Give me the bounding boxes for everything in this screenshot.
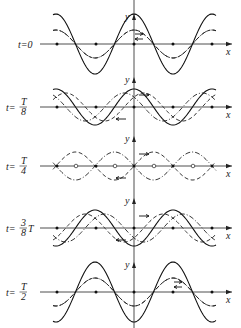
- point-marker: [95, 43, 98, 46]
- node-marker: [152, 164, 156, 168]
- time-label: t=T8: [6, 96, 28, 117]
- svg-text:8: 8: [21, 227, 26, 238]
- point-marker: [95, 165, 98, 168]
- standing-wave-diagram: xyt=0xyt=T8xyt=T4xyt=38Txyt=T2: [0, 0, 241, 328]
- y-axis-label: y: [124, 259, 130, 270]
- right-arrow-icon: [135, 33, 143, 36]
- point-marker: [95, 227, 98, 230]
- time-label: t=0: [18, 39, 33, 50]
- point-marker: [211, 291, 214, 294]
- point-marker: [172, 106, 175, 109]
- svg-text:t=0: t=0: [18, 39, 33, 50]
- point-marker: [133, 43, 136, 46]
- point-marker: [56, 106, 59, 109]
- x-axis-label: x: [225, 168, 231, 179]
- svg-text:t=: t=: [6, 161, 16, 172]
- right-arrow-icon: [139, 153, 149, 156]
- x-axis-label: x: [225, 230, 231, 241]
- panel-t38: xyt=38T: [6, 195, 232, 246]
- point-marker: [172, 227, 175, 230]
- svg-text:t=: t=: [6, 287, 16, 298]
- right-arrow-icon: [174, 281, 182, 284]
- point-marker: [56, 291, 59, 294]
- time-label: t=T2: [6, 281, 28, 302]
- point-marker: [211, 106, 214, 109]
- point-marker: [133, 227, 136, 230]
- left-arrow-icon: [135, 38, 143, 41]
- panel-t0: xyt=0: [18, 11, 232, 74]
- node-marker: [191, 164, 195, 168]
- svg-text:t=: t=: [6, 223, 16, 234]
- point-marker: [211, 43, 214, 46]
- point-marker: [133, 106, 136, 109]
- point-marker: [56, 227, 59, 230]
- left-arrow-icon: [116, 118, 126, 121]
- y-axis-label: y: [124, 195, 130, 206]
- time-label: t=38T: [6, 217, 35, 238]
- y-axis-label: y: [124, 133, 130, 144]
- y-axis-arrow-icon: [132, 77, 136, 83]
- svg-text:8: 8: [21, 106, 26, 117]
- panel-t2: xyt=T2: [6, 259, 232, 322]
- point-marker: [211, 165, 214, 168]
- y-axis-label: y: [124, 74, 130, 85]
- node-marker: [113, 164, 117, 168]
- point-marker: [133, 165, 136, 168]
- point-marker: [56, 165, 59, 168]
- point-marker: [172, 291, 175, 294]
- point-marker: [95, 106, 98, 109]
- point-marker: [172, 165, 175, 168]
- panel-t4: xyt=T4: [6, 133, 232, 180]
- point-marker: [211, 227, 214, 230]
- y-axis-arrow-icon: [132, 14, 136, 20]
- left-arrow-icon: [174, 286, 182, 289]
- svg-text:t=: t=: [6, 102, 16, 113]
- point-marker: [133, 291, 136, 294]
- left-arrow-icon: [116, 177, 126, 180]
- y-axis-arrow-icon: [132, 136, 136, 142]
- svg-text:4: 4: [21, 165, 26, 176]
- svg-text:T: T: [28, 223, 35, 234]
- time-label: t=T4: [6, 155, 28, 176]
- y-axis-arrow-icon: [132, 198, 136, 204]
- node-marker: [74, 164, 78, 168]
- y-axis-arrow-icon: [132, 262, 136, 268]
- x-axis-label: x: [225, 294, 231, 305]
- point-marker: [56, 43, 59, 46]
- x-axis-label: x: [225, 109, 231, 120]
- x-axis-label: x: [225, 46, 231, 57]
- svg-text:2: 2: [21, 291, 26, 302]
- point-marker: [172, 43, 175, 46]
- panel-t8: xyt=T8: [6, 74, 232, 125]
- point-marker: [95, 291, 98, 294]
- right-arrow-icon: [139, 215, 149, 218]
